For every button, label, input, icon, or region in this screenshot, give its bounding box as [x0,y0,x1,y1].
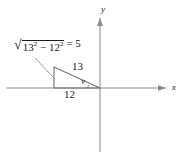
hypotenuse-label: 13 [72,61,83,72]
math-figure: y x 13 12 v √ 132 − 122 = 5 [0,0,188,159]
figure-canvas [0,0,188,159]
leader-line [35,58,54,78]
angle-label: v [81,77,85,86]
radicand-second-base: 12 [49,41,60,53]
radical-sign-icon: √ [14,38,22,52]
y-axis-arrowhead [97,18,103,26]
x-axis-label: x [172,83,176,92]
radicand: 132 − 122 [22,40,65,53]
radicand-first-base: 13 [23,41,34,53]
radicand-first-exponent: 2 [34,40,38,48]
radicand-second-exponent: 2 [60,40,64,48]
x-axis-arrowhead [158,85,166,91]
height-expression: √ 132 − 122 = 5 [14,38,81,53]
minus-operator: − [40,41,46,53]
equals-result: = 5 [66,38,80,49]
base-label: 12 [64,89,75,100]
y-axis-label: y [101,5,105,14]
